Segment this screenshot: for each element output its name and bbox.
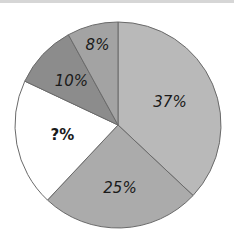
slice-label-37: 37%	[153, 93, 186, 111]
slice-label-10: 10%	[55, 72, 88, 90]
pie-chart: 37% 25% ?% 10% 8%	[0, 0, 234, 240]
slice-label-8: 8%	[86, 36, 110, 54]
slice-label-25: 25%	[103, 179, 136, 197]
slice-label-unknown: ?%	[51, 126, 75, 144]
